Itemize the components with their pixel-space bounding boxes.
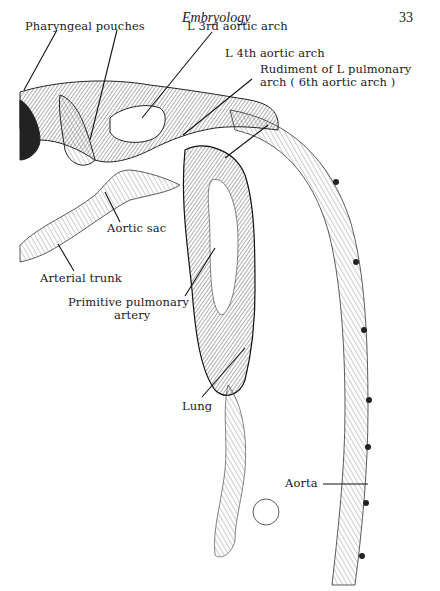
bulge <box>253 499 279 525</box>
label-lung: Lung <box>182 400 212 413</box>
label-arterial-trunk: Arterial trunk <box>40 272 122 285</box>
label-l-3rd-aortic-arch: L 3rd aortic arch <box>187 20 288 33</box>
label-pharyngeal-pouches: Pharyngeal pouches <box>25 20 145 33</box>
label-l-4th-aortic-arch: L 4th aortic arch <box>225 47 325 60</box>
label-aortic-sac: Aortic sac <box>107 222 166 235</box>
label-aorta: Aorta <box>285 477 318 490</box>
arterial-trunk-shape <box>20 170 180 262</box>
foregut-shape <box>214 385 245 557</box>
label-rudiment-line2: arch ( 6th aortic arch ) <box>260 76 395 89</box>
label-primitive-pulmonary-line2: artery <box>114 309 150 322</box>
